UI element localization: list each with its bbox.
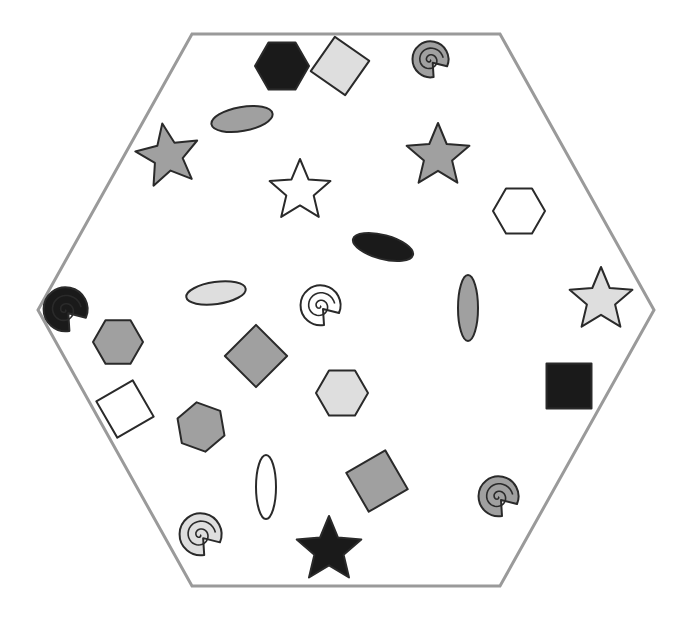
square-shape	[311, 37, 369, 95]
square-shape	[547, 364, 592, 409]
ellipse-shape	[350, 227, 416, 266]
square-shape	[225, 325, 287, 387]
spiral-shape	[301, 285, 341, 325]
spiral-shape	[44, 287, 88, 331]
ellipse-shape	[209, 102, 274, 136]
ellipse-shape	[185, 278, 247, 308]
spiral-shape	[180, 513, 222, 555]
hexagon-shape	[316, 371, 368, 416]
shapes-diagram	[0, 0, 685, 630]
spiral-shape	[479, 476, 519, 516]
outer-hexagon-border	[38, 34, 654, 586]
star-shape	[407, 123, 470, 183]
hexagon-shape	[493, 189, 545, 234]
hexagon-shape	[93, 320, 143, 363]
hexagon-shape	[255, 43, 309, 90]
hexagon-shape	[170, 398, 232, 456]
star-shape	[270, 159, 331, 217]
ellipse-shape	[458, 275, 478, 341]
spiral-shape	[412, 41, 448, 77]
star-shape	[297, 516, 362, 578]
square-shape	[346, 450, 407, 511]
shape-layer	[44, 37, 633, 578]
star-shape	[131, 118, 203, 188]
ellipse-shape	[256, 455, 276, 519]
star-shape	[570, 267, 633, 327]
